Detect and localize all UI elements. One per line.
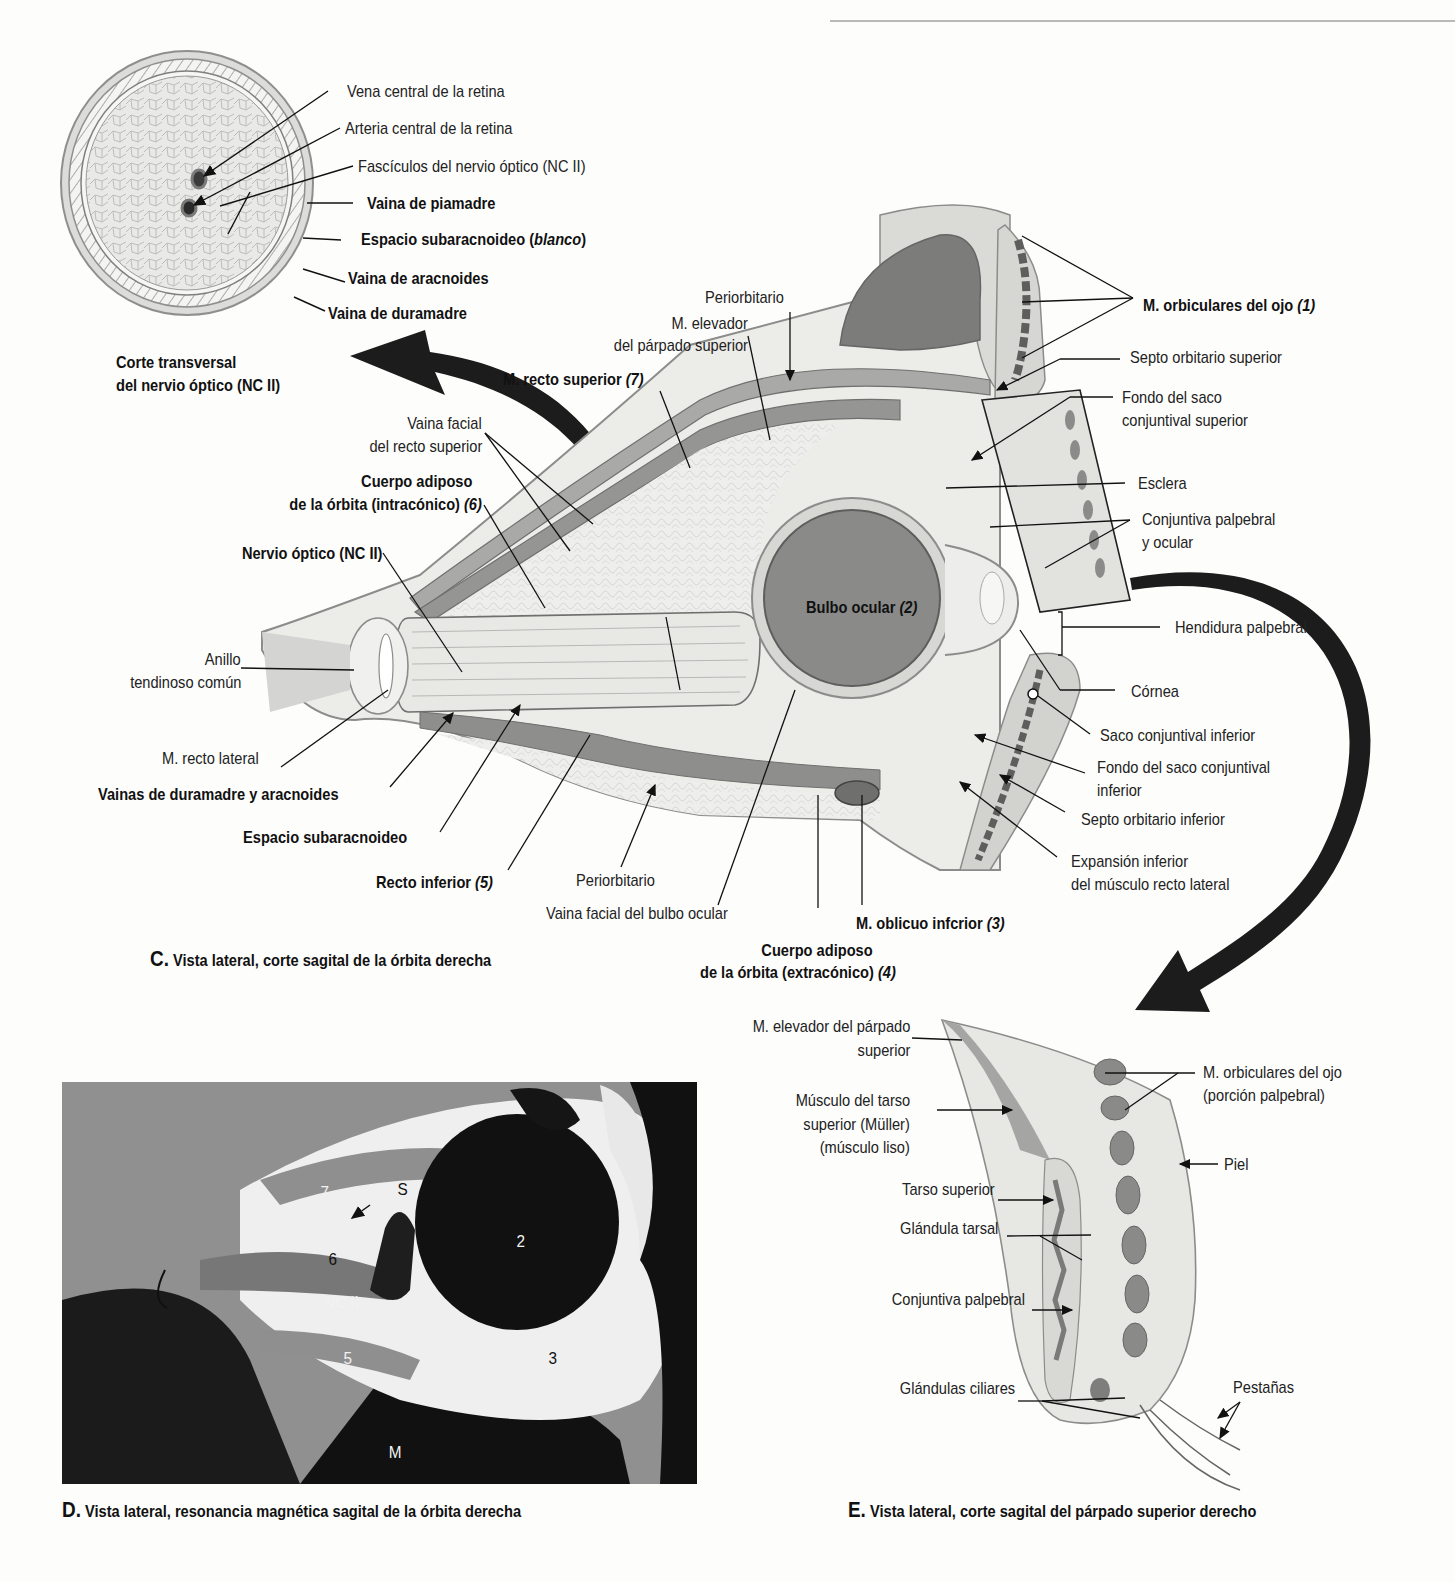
label-number: (3)	[987, 914, 1005, 933]
label-expansion-l2: del músculo recto lateral	[1071, 874, 1229, 896]
label-vainas-dura-aracnoides: Vainas de duramadre y aracnoides	[98, 784, 339, 806]
label-text: Espacio subaracnoideo (	[361, 230, 534, 249]
label-anillo-l2: tendinoso común	[130, 672, 241, 694]
label-recto-superior: M. recto superior (7)	[503, 369, 644, 391]
label-vaina-facial-l1: Vaina facial	[407, 413, 482, 435]
label-periorbitario-top: Periorbitario	[705, 287, 784, 309]
label-espacio-subaracnoideo-blanco: Espacio subaracnoideo (blanco)	[361, 229, 586, 251]
label-espacio-subaracnoideo: Espacio subaracnoideo	[243, 827, 407, 849]
mri-label-4: 4	[511, 1417, 520, 1437]
label-e-tarso: Tarso superior	[902, 1179, 995, 1201]
label-number: (2)	[899, 598, 917, 617]
caption-text: Vista lateral, corte sagital del párpado…	[866, 1502, 1257, 1521]
label-elevador-l1: M. elevador	[672, 313, 748, 335]
label-e-conjuntiva: Conjuntiva palpebral	[892, 1289, 1025, 1311]
label-vaina-duramadre: Vaina de duramadre	[328, 303, 467, 325]
label-number: (5)	[475, 873, 493, 892]
label-cuerpo-extra-l2: de la órbita (extracónico) (4)	[700, 962, 896, 984]
mri-label-m: M	[389, 1443, 402, 1463]
label-periorbitario-bottom: Periorbitario	[576, 870, 655, 892]
label-vaina-aracnoides: Vaina de aracnoides	[348, 268, 489, 290]
label-cuerpo-extra-l1: Cuerpo adiposo	[740, 940, 895, 962]
label-italic: blanco	[534, 230, 581, 249]
mri-label-s: S	[398, 1180, 408, 1200]
label-text: de la órbita (intracónico)	[289, 495, 464, 514]
label-e-elevador-l2: superior	[857, 1040, 910, 1062]
caption-figure-e: E. Vista lateral, corte sagital del párp…	[848, 1497, 1256, 1523]
label-text: Bulbo ocular	[806, 598, 899, 617]
label-conjuntiva-l2: y ocular	[1142, 532, 1193, 554]
label-recto-inferior: Recto inferior (5)	[376, 872, 493, 894]
label-expansion-l1: Expansión inferior	[1071, 851, 1188, 873]
label-e-pestanas: Pestañas	[1233, 1377, 1294, 1399]
label-esclera: Esclera	[1138, 473, 1187, 495]
label-cornea: Córnea	[1131, 681, 1179, 703]
label-vena-central: Vena central de la retina	[347, 81, 505, 103]
label-number: (7)	[626, 370, 644, 389]
label-elevador-l2: del párpado superior	[614, 335, 748, 357]
label-e-piel: Piel	[1224, 1154, 1248, 1176]
inset-title-line1: Corte transversal	[116, 352, 236, 374]
label-cuerpo-intra-l2: de la órbita (intracónico) (6)	[289, 494, 482, 516]
label-e-muller-l2: superior (Müller)	[804, 1114, 910, 1136]
caption-figure-d: D. Vista lateral, resonancia magnética s…	[62, 1497, 521, 1523]
label-fondo-inferior-l2: inferior	[1097, 780, 1142, 802]
inset-title-line2: del nervio óptico (NC II)	[116, 375, 280, 397]
label-number: (6)	[464, 495, 482, 514]
label-vaina-bulbo: Vaina facial del bulbo ocular	[546, 903, 728, 925]
label-e-orbiculares-l1: M. orbiculares del ojo	[1203, 1062, 1342, 1084]
label-number: (4)	[878, 963, 896, 982]
label-text: M. oblicuo infcrior	[856, 914, 987, 933]
label-e-elevador-l1: M. elevador del párpado	[752, 1016, 910, 1038]
label-vaina-facial-l2: del recto superior	[369, 436, 482, 458]
caption-figure-c: C. Vista lateral, corte sagital de la ór…	[150, 946, 491, 972]
label-oblicuo-inferior: M. oblicuo infcrior (3)	[856, 913, 1005, 935]
label-arteria-central: Arteria central de la retina	[345, 118, 512, 140]
mri-image	[62, 1082, 697, 1484]
label-fondo-superior-l1: Fondo del saco	[1122, 387, 1222, 409]
label-septo-superior: Septo orbitario superior	[1130, 347, 1282, 369]
label-text: M. recto superior	[503, 370, 626, 389]
label-bulbo-ocular: Bulbo ocular (2)	[806, 597, 917, 619]
mri-label-5: 5	[343, 1349, 352, 1369]
label-septo-inferior: Septo orbitario inferior	[1081, 809, 1225, 831]
label-recto-lateral: M. recto lateral	[162, 748, 259, 770]
label-fasciculos: Fascículos del nervio óptico (NC II)	[358, 156, 586, 178]
label-cuerpo-intra-l1: Cuerpo adiposo	[361, 471, 472, 493]
mri-label-2: 2	[516, 1232, 525, 1252]
label-e-ciliares: Glándulas ciliares	[900, 1378, 1015, 1400]
label-conjuntiva-l1: Conjuntiva palpebral	[1142, 509, 1275, 531]
label-text: de la órbita (extracónico)	[700, 963, 878, 982]
label-e-orbiculares-l2: (porción palpebral)	[1203, 1085, 1325, 1107]
label-e-glandula-tarsal: Glándula tarsal	[900, 1218, 998, 1240]
mri-label-6: 6	[328, 1250, 337, 1270]
label-orbiculares: M. orbiculares del ojo (1)	[1143, 295, 1315, 317]
mri-label-nc-ii: NC II	[324, 1293, 359, 1313]
caption-letter: C.	[150, 946, 169, 971]
label-saco-inferior: Saco conjuntival inferior	[1100, 725, 1255, 747]
caption-letter: E.	[848, 1497, 866, 1522]
mri-label-7: 7	[320, 1183, 329, 1203]
label-text: Recto inferior	[376, 873, 475, 892]
label-hendidura: Hendidura palpebral	[1175, 617, 1307, 639]
caption-letter: D.	[62, 1497, 81, 1522]
eyelid-section	[942, 1020, 1240, 1490]
label-text: M. orbiculares del ojo	[1143, 296, 1297, 315]
label-nervio-optico: Nervio óptico (NC II)	[241, 543, 382, 565]
label-anillo-l1: Anillo	[205, 649, 241, 671]
mri-label-3: 3	[548, 1349, 557, 1369]
label-e-muller-l1: Músculo del tarso	[795, 1090, 910, 1112]
label-e-muller-l3: (músculo liso)	[820, 1137, 910, 1159]
label-fondo-superior-l2: conjuntival superior	[1122, 410, 1248, 432]
optic-nerve-cross-section	[61, 51, 313, 315]
caption-text: Vista lateral, corte sagital de la órbit…	[169, 951, 491, 970]
label-fondo-inferior-l1: Fondo del saco conjuntival	[1097, 757, 1270, 779]
mri-label-1: 1	[648, 1100, 657, 1120]
caption-text: Vista lateral, resonancia magnética sagi…	[81, 1502, 521, 1521]
label-suffix: )	[581, 230, 586, 249]
label-number: (1)	[1297, 296, 1315, 315]
label-vaina-piamadre: Vaina de piamadre	[367, 193, 495, 215]
